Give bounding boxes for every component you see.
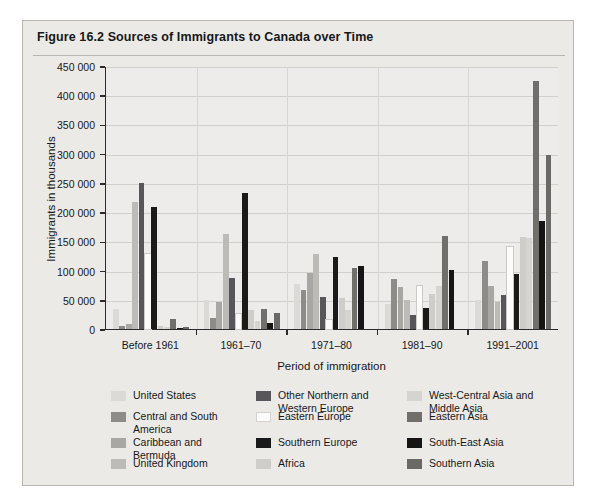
x-axis-tick-label: Before 1961 [122, 339, 179, 351]
bar [242, 193, 248, 329]
bar [488, 286, 494, 329]
gridline [106, 184, 558, 185]
bar [482, 261, 488, 329]
bar [119, 326, 125, 330]
bar [320, 297, 326, 329]
chart-plot-wrapper: Immigrants in thousands 050 000100 00015… [105, 67, 558, 330]
legend-label: United States [133, 389, 196, 402]
vertical-gridline [197, 67, 198, 329]
x-axis-tick-mark [467, 330, 469, 335]
legend-item[interactable]: Southern Europe [256, 436, 357, 449]
y-axis-tick-label: 200 000 [57, 207, 95, 219]
legend-item[interactable]: Central and South America [111, 410, 218, 435]
vertical-gridline [287, 67, 288, 329]
chart-plot-area [105, 67, 558, 330]
legend-swatch [111, 412, 126, 422]
x-axis-ticks: Before 19611961–701971–801981–901991–200… [105, 330, 558, 356]
bar [170, 319, 176, 329]
bar [294, 284, 300, 329]
bar [113, 309, 119, 329]
legend-item[interactable]: South-East Asia [407, 436, 504, 449]
gridline [106, 242, 558, 243]
bar [333, 257, 339, 329]
legend-item[interactable]: Eastern Europe [256, 410, 351, 423]
bar [164, 327, 170, 329]
bar [352, 268, 358, 329]
gridline [106, 96, 558, 97]
bar [526, 238, 532, 329]
legend-swatch [256, 438, 271, 448]
bar [391, 279, 397, 329]
legend-swatch [407, 391, 422, 401]
legend-label: Eastern Asia [429, 410, 488, 423]
bar [132, 202, 138, 329]
legend-swatch [256, 412, 271, 422]
bar [307, 273, 313, 329]
bar [223, 234, 229, 329]
bar [274, 313, 280, 329]
bar [326, 320, 332, 329]
x-axis-label: Period of immigration [105, 360, 558, 372]
bar [139, 183, 145, 329]
y-axis-tick-label: 400 000 [57, 90, 95, 102]
x-axis-tick-mark [196, 330, 198, 335]
gridline [106, 67, 558, 68]
figure-title: Figure 16.2 Sources of Immigrants to Can… [37, 30, 373, 44]
bar [339, 298, 345, 329]
x-axis-tick-label: 1971–80 [311, 339, 352, 351]
bar [385, 304, 391, 329]
legend-label: Southern Europe [278, 436, 357, 449]
x-axis-tick-label: 1981–90 [402, 339, 443, 351]
x-axis-tick-mark [286, 330, 288, 335]
legend-item[interactable]: Southern Asia [407, 457, 494, 470]
bar [417, 286, 423, 329]
bar [449, 270, 455, 329]
gridline [106, 155, 558, 156]
bar [410, 315, 416, 329]
bar [210, 318, 216, 329]
legend-swatch [111, 459, 126, 469]
bar [126, 324, 132, 329]
bar [145, 254, 151, 329]
bar [539, 221, 545, 329]
bar [514, 274, 520, 329]
x-axis-tick-mark [377, 330, 379, 335]
y-axis-tick-label: 0 [89, 324, 95, 336]
y-axis-tick-label: 300 000 [57, 149, 95, 161]
y-axis-tick-label: 150 000 [57, 236, 95, 248]
legend-swatch [111, 438, 126, 448]
y-axis-tick-label: 50 000 [63, 295, 95, 307]
legend-swatch [407, 438, 422, 448]
bar [177, 328, 183, 329]
bar [423, 308, 429, 329]
title-divider [33, 55, 565, 56]
legend-item[interactable]: Eastern Asia [407, 410, 488, 423]
bar [267, 323, 273, 329]
legend-item[interactable]: Africa [256, 457, 305, 470]
gridline [106, 213, 558, 214]
bar [255, 321, 261, 329]
legend-label: United Kingdom [133, 457, 208, 470]
bar [520, 237, 526, 329]
bar [398, 287, 404, 329]
legend-swatch [256, 391, 271, 401]
legend-item[interactable]: United Kingdom [111, 457, 208, 470]
bar [442, 236, 448, 330]
bar [158, 326, 164, 329]
legend-swatch [407, 412, 422, 422]
bar [261, 309, 267, 329]
bar [313, 254, 319, 329]
x-axis-tick-label: 1961–70 [220, 339, 261, 351]
bar [495, 302, 501, 329]
legend-item[interactable]: United States [111, 389, 196, 402]
bar [248, 310, 254, 329]
bar [216, 302, 222, 329]
y-axis-tick-label: 100 000 [57, 266, 95, 278]
legend-label: Central and South America [133, 410, 218, 435]
legend-label: Southern Asia [429, 457, 494, 470]
legend-label: Eastern Europe [278, 410, 351, 423]
x-axis-tick-label: 1991–2001 [486, 339, 539, 351]
vertical-gridline [378, 67, 379, 329]
bar [533, 81, 539, 329]
bar [183, 327, 189, 329]
